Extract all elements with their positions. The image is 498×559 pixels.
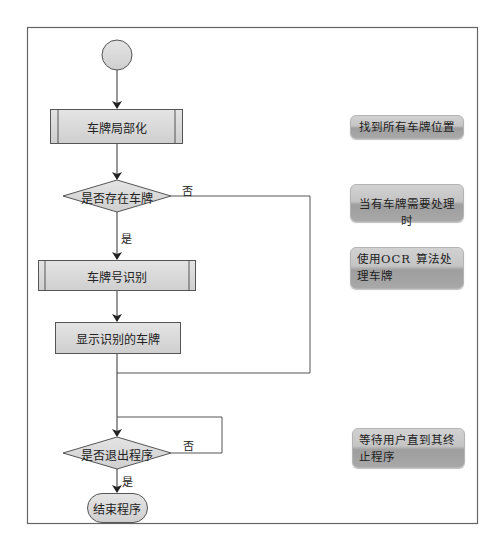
annotation-when-plate: 当有车牌需要处理时 <box>350 184 464 222</box>
display-label: 显示识别的车牌 <box>76 330 160 347</box>
has-plate-yes-label: 是 <box>121 230 132 246</box>
annotation-find-plates: 找到所有车牌位置 <box>350 115 464 139</box>
exit-yes-label: 是 <box>122 473 133 489</box>
recognize-label: 车牌号识别 <box>87 268 147 285</box>
end-label: 结束程序 <box>93 500 141 517</box>
has-plate-no-label: 否 <box>182 182 193 198</box>
exit-no-label: 否 <box>183 437 194 453</box>
annotation-ocr: 使用OCR 算法处理车牌 <box>350 247 464 289</box>
has-plate-label: 是否存在车牌 <box>81 189 153 206</box>
start-node <box>102 40 132 70</box>
localize-label: 车牌局部化 <box>87 119 147 136</box>
annotation-wait-user: 等待用户直到其终止程序 <box>352 428 465 468</box>
exit-label: 是否退出程序 <box>81 446 153 463</box>
